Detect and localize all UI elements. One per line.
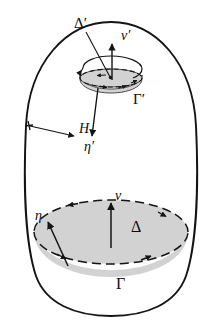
label-delta: Δ: [131, 219, 141, 235]
label-gamma-prime: Γ′: [133, 92, 145, 107]
figure-canvas: [0, 0, 222, 322]
label-eta: η: [35, 209, 42, 223]
mathematical-figure: Δ′ ν′ Γ′ η′ H ν η Δ Γ: [0, 0, 222, 322]
label-gamma: Γ: [116, 276, 125, 292]
label-nu-prime: ν′: [121, 29, 130, 43]
label-h: H: [79, 122, 89, 136]
label-eta-prime: η′: [84, 140, 94, 154]
label-nu: ν: [115, 189, 121, 203]
label-delta-prime: Δ′: [74, 16, 87, 31]
